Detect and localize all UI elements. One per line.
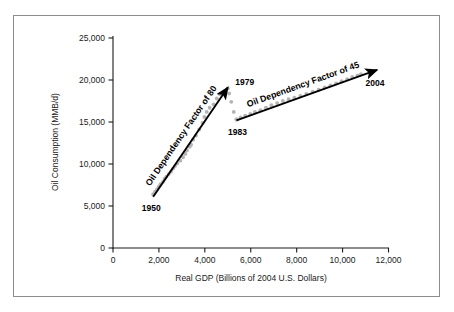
data-point (205, 110, 209, 114)
oil-dependency-factor-80-arrow (153, 88, 228, 197)
x-tick-label: 2,000 (148, 255, 170, 265)
y-axis-title: Oil Consumption (MMB/d) (50, 93, 60, 191)
x-tick-label: 12,000 (376, 255, 402, 265)
y-axis-ticks: 05,00010,00015,00020,00025,000 (79, 33, 113, 253)
oil-dependency-factor-80-label: Oil Dependency Factor of 80 (143, 84, 218, 188)
year-1983-label: 1983 (228, 127, 247, 137)
y-tick-label: 0 (100, 243, 105, 253)
series-1979-1983 (226, 86, 239, 121)
x-tick-label: 4,000 (194, 255, 216, 265)
y-tick-label: 15,000 (79, 117, 105, 127)
data-point (227, 91, 231, 95)
x-axis-title: Real GDP (Billions of 2004 U.S. Dollars) (175, 273, 327, 283)
data-point (229, 100, 233, 104)
y-tick-label: 25,000 (79, 33, 105, 43)
data-point (232, 110, 236, 114)
chart-figure: Oil Dependency Factor of 80Oil Dependenc… (0, 0, 454, 312)
y-tick-label: 20,000 (79, 75, 105, 85)
year-2004-label: 2004 (365, 78, 384, 88)
oil-dependency-factor-45-label: Oil Dependency Factor of 45 (245, 60, 360, 110)
x-axis-ticks: 02,0004,0006,0008,00010,00012,000 (111, 248, 402, 265)
y-tick-label: 5,000 (84, 201, 106, 211)
oil-consumption-vs-gdp-chart: Oil Dependency Factor of 80Oil Dependenc… (0, 0, 454, 312)
x-tick-label: 8,000 (286, 255, 308, 265)
x-tick-label: 10,000 (330, 255, 356, 265)
year-1950-label: 1950 (142, 203, 161, 213)
data-point (215, 97, 219, 101)
data-point (208, 106, 212, 110)
y-tick-label: 10,000 (79, 159, 105, 169)
x-tick-label: 6,000 (240, 255, 262, 265)
year-1979-label: 1979 (235, 77, 254, 87)
x-tick-label: 0 (111, 255, 116, 265)
